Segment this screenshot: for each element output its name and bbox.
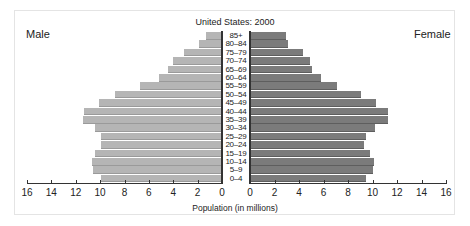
male-x-tick-label: 0 — [212, 187, 232, 198]
female-x-tick — [275, 180, 276, 184]
female-bar — [250, 150, 370, 158]
female-x-tick — [299, 180, 300, 184]
male-bar — [83, 116, 222, 124]
female-x-tick-label: 12 — [387, 187, 407, 198]
male-bar — [101, 175, 222, 183]
female-x-tick-label: 16 — [436, 187, 456, 198]
male-x-tick — [222, 180, 223, 184]
male-bar — [99, 99, 222, 107]
male-bar — [173, 57, 222, 65]
female-baseline — [249, 31, 251, 184]
female-x-tick-label: 8 — [338, 187, 358, 198]
male-x-tick-label: 14 — [41, 187, 61, 198]
female-bar — [250, 108, 388, 116]
male-x-tick — [27, 180, 28, 184]
male-bar — [168, 66, 222, 74]
male-bar — [206, 32, 222, 40]
x-axis-label: Population (in millions) — [0, 203, 470, 213]
female-bar — [250, 158, 374, 166]
female-x-tick-label: 10 — [363, 187, 383, 198]
male-bar — [184, 49, 222, 57]
male-baseline — [221, 31, 223, 184]
male-bar — [92, 158, 222, 166]
male-bar — [159, 74, 222, 82]
male-x-tick — [125, 180, 126, 184]
female-x-tick — [373, 180, 374, 184]
female-bar — [250, 74, 321, 82]
female-bar — [250, 99, 376, 107]
female-x-tick-label: 6 — [314, 187, 334, 198]
female-bar — [250, 32, 286, 40]
female-bar — [250, 91, 361, 99]
male-legend-label: Male — [26, 28, 50, 40]
female-x-tick — [397, 180, 398, 184]
male-x-tick — [173, 180, 174, 184]
female-x-tick — [250, 180, 251, 184]
male-x-tick — [100, 180, 101, 184]
female-x-tick — [348, 180, 349, 184]
male-x-tick-label: 8 — [115, 187, 135, 198]
female-bar — [250, 82, 337, 90]
male-x-tick-label: 16 — [17, 187, 37, 198]
female-bar — [250, 49, 303, 57]
male-bar — [84, 108, 222, 116]
female-bar — [250, 116, 388, 124]
male-bar — [101, 133, 222, 141]
male-bar — [93, 166, 222, 174]
male-x-tick-label: 6 — [139, 187, 159, 198]
age-group-label: 0–4 — [222, 175, 250, 183]
male-bar — [115, 91, 222, 99]
female-x-tick-label: 2 — [265, 187, 285, 198]
male-bar — [95, 150, 222, 158]
male-x-tick-label: 4 — [163, 187, 183, 198]
female-x-tick — [422, 180, 423, 184]
male-x-tick — [198, 180, 199, 184]
female-bar — [250, 57, 310, 65]
female-x-tick-label: 4 — [289, 187, 309, 198]
chart-title: United States: 2000 — [0, 17, 470, 27]
male-x-tick-label: 10 — [90, 187, 110, 198]
male-x-tick-label: 12 — [66, 187, 86, 198]
female-bar — [250, 40, 288, 48]
male-x-tick — [149, 180, 150, 184]
female-legend-label: Female — [414, 28, 451, 40]
female-bar — [250, 166, 373, 174]
male-x-tick — [76, 180, 77, 184]
female-x-tick-label: 14 — [412, 187, 432, 198]
male-bar — [199, 40, 222, 48]
female-bar — [250, 133, 366, 141]
male-x-tick-label: 2 — [188, 187, 208, 198]
female-bar — [250, 66, 312, 74]
male-bar — [101, 141, 222, 149]
female-bar — [250, 141, 364, 149]
male-bar — [140, 82, 222, 90]
female-x-tick-label: 0 — [240, 187, 260, 198]
male-bar — [95, 124, 222, 132]
female-x-tick — [324, 180, 325, 184]
female-bar — [250, 124, 375, 132]
male-x-tick — [51, 180, 52, 184]
female-x-tick — [446, 180, 447, 184]
